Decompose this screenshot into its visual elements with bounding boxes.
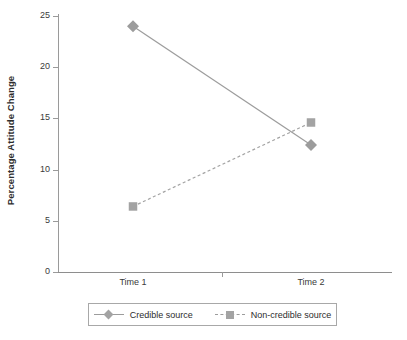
y-axis-tick-label: 15 bbox=[26, 113, 50, 122]
y-axis-tick-label-wrap: 5 bbox=[26, 216, 50, 226]
y-axis-tick-label-wrap: 15 bbox=[26, 113, 50, 123]
x-axis-tick-label: Time 1 bbox=[98, 278, 168, 287]
data-point-marker-diamond bbox=[305, 139, 317, 151]
legend-entry-credible[interactable]: Credible source bbox=[94, 309, 193, 321]
chart-legend: Credible source Non-credible source bbox=[88, 303, 337, 326]
y-axis-tick-label-wrap: 20 bbox=[26, 62, 50, 72]
legend-entry-non-credible[interactable]: Non-credible source bbox=[215, 309, 332, 321]
y-axis-tick-label: 25 bbox=[26, 11, 50, 20]
y-axis-tick-label: 20 bbox=[26, 62, 50, 71]
series-line-2 bbox=[133, 122, 311, 206]
x-axis-tick-label: Time 2 bbox=[276, 278, 346, 287]
y-axis-tick-label-wrap: 0 bbox=[26, 267, 50, 277]
y-axis-tick bbox=[53, 16, 58, 17]
y-axis-tick-label: 10 bbox=[26, 165, 50, 174]
legend-marker-square-icon bbox=[215, 309, 245, 321]
y-axis-tick-label: 0 bbox=[26, 267, 50, 276]
data-point-marker-square bbox=[307, 118, 316, 127]
series-line-1 bbox=[133, 26, 311, 145]
y-axis-title: Percentage Attitude Change bbox=[0, 0, 22, 280]
x-axis-line bbox=[58, 272, 392, 273]
y-axis-tick bbox=[53, 118, 58, 119]
legend-marker-diamond-icon bbox=[94, 309, 124, 321]
y-axis-tick bbox=[53, 170, 58, 171]
legend-label-non-credible: Non-credible source bbox=[251, 310, 332, 320]
legend-label-credible: Credible source bbox=[130, 310, 193, 320]
y-axis-tick-label-wrap: 10 bbox=[26, 165, 50, 175]
x-axis-tick bbox=[222, 272, 223, 277]
y-axis-tick-label-wrap: 25 bbox=[26, 11, 50, 21]
data-point-marker-square bbox=[129, 202, 138, 211]
y-axis-line bbox=[58, 14, 59, 273]
y-axis-tick-label: 5 bbox=[26, 216, 50, 225]
y-axis-tick bbox=[53, 272, 58, 273]
data-point-marker-diamond bbox=[127, 20, 139, 32]
y-axis-title-label: Percentage Attitude Change bbox=[6, 75, 17, 204]
y-axis-tick bbox=[53, 67, 58, 68]
y-axis-tick bbox=[53, 221, 58, 222]
line-chart: Percentage Attitude Change 0510152025 Ti… bbox=[0, 0, 407, 340]
series-layer bbox=[0, 0, 407, 340]
